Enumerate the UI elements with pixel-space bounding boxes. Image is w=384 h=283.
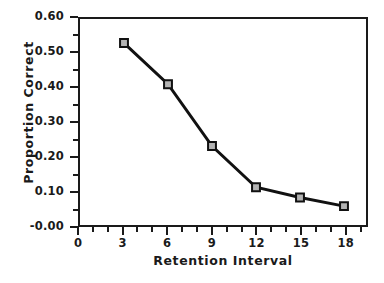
x-axis-minor-tick	[241, 227, 243, 232]
x-axis-minor-tick	[107, 227, 109, 232]
x-axis-minor-tick	[330, 227, 332, 232]
data-point-marker	[252, 183, 260, 191]
series-polyline	[124, 43, 344, 206]
x-axis-tick-label: 18	[337, 238, 353, 250]
x-axis-tick	[300, 227, 302, 235]
x-axis-tick-label: 0	[74, 238, 82, 250]
x-axis-minor-tick	[92, 227, 94, 232]
x-axis-minor-tick	[270, 227, 272, 232]
y-axis-tick-label: 0.60	[35, 11, 64, 23]
x-axis-minor-tick	[315, 227, 317, 232]
x-axis-minor-tick	[285, 227, 287, 232]
y-axis-title: Proportion Correct	[21, 23, 36, 203]
x-axis-minor-tick	[136, 227, 138, 232]
x-axis-minor-tick	[360, 227, 362, 232]
y-axis-tick-label: 0.40	[35, 81, 64, 93]
x-axis-tick	[211, 227, 213, 235]
x-axis-minor-tick	[196, 227, 198, 232]
x-axis-title: Retention Interval	[78, 253, 368, 268]
y-axis-tick-label: 0.10	[35, 186, 64, 198]
x-axis-tick-label: 3	[119, 238, 127, 250]
y-axis-tick	[70, 121, 78, 123]
x-axis-tick	[166, 227, 168, 235]
chart-figure: 0.600.500.400.300.200.10-0.00 Proportion…	[0, 0, 384, 283]
y-axis-tick-label: 0.20	[35, 151, 64, 163]
x-axis-minor-tick	[181, 227, 183, 232]
x-axis-tick-label: 15	[293, 238, 309, 250]
data-point-marker	[340, 202, 348, 210]
x-axis-tick-label: 6	[163, 238, 171, 250]
y-axis-tick-label: 0.50	[35, 46, 64, 58]
data-point-marker	[208, 142, 216, 150]
y-axis-tick-label: 0.30	[35, 116, 64, 128]
data-point-marker	[164, 80, 172, 88]
x-axis-tick	[77, 227, 79, 235]
x-axis-tick	[122, 227, 124, 235]
x-axis-tick	[255, 227, 257, 235]
x-axis-tick	[345, 227, 347, 235]
y-axis-tick	[70, 86, 78, 88]
y-axis-tick	[70, 156, 78, 158]
x-axis-tick-label: 12	[248, 238, 264, 250]
y-axis-tick	[70, 16, 78, 18]
data-point-marker	[120, 39, 128, 47]
data-point-marker	[296, 194, 304, 202]
x-axis-minor-tick	[151, 227, 153, 232]
x-axis-tick-label: 9	[208, 238, 216, 250]
data-series-line	[80, 19, 366, 225]
y-axis-tick	[70, 51, 78, 53]
y-axis-tick	[70, 191, 78, 193]
x-axis-minor-tick	[226, 227, 228, 232]
series-markers	[120, 39, 348, 210]
plot-area	[78, 17, 368, 227]
